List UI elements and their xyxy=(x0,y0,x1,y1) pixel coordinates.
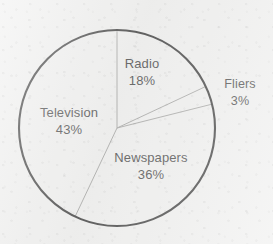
pie-chart-figure: Radio 18% Fliers 3% Newspapers 36% Telev… xyxy=(0,0,273,244)
slice-label-name-newspapers: Newspapers xyxy=(114,150,188,165)
pie-chart-svg: Radio 18% Fliers 3% Newspapers 36% Telev… xyxy=(0,0,273,244)
pie-slice-label-fliers: Fliers 3% xyxy=(224,77,255,108)
slice-label-value-television: 43% xyxy=(56,122,83,137)
slice-label-value-fliers: 3% xyxy=(231,94,249,108)
slice-label-value-radio: 18% xyxy=(129,73,156,88)
slice-label-name-fliers: Fliers xyxy=(224,77,255,91)
slice-label-name-radio: Radio xyxy=(125,56,159,71)
slice-label-value-newspapers: 36% xyxy=(138,167,165,182)
slice-label-name-television: Television xyxy=(40,105,98,120)
